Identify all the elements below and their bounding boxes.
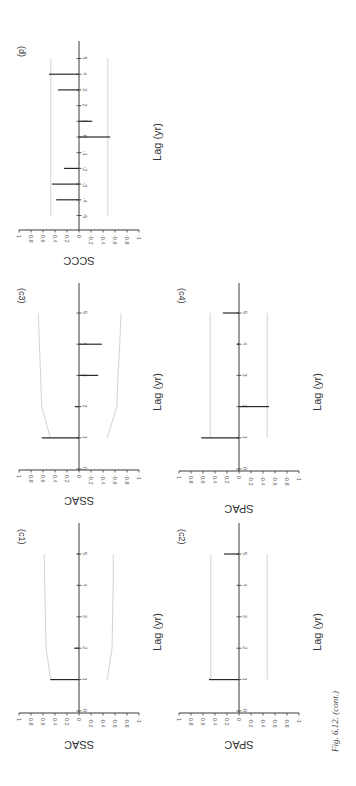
correlation-tick-label: 1 [176,718,182,721]
correlation-tick-label: 0 [236,476,242,479]
lag-tick-label: 4 [242,342,248,345]
correlation-tick-label: -0.2 [88,235,94,244]
lag-tick-label: 5 [82,311,88,314]
correlation-tick-label: -0.6 [112,718,118,727]
correlation-tick-label: 0.2 [64,718,70,726]
correlation-tick-label: 1 [176,476,182,479]
correlation-tick-label: -0.8 [284,718,290,727]
panel-c3: 10.80.60.40.20-0.2-0.4-0.6-0.8-1012345(c… [16,283,163,507]
confidence-lower-line [107,313,121,438]
correlation-tick-label: 0.6 [40,235,46,243]
correlation-axis-label: SPAC [224,503,253,515]
correlation-tick-label: 0.6 [200,476,206,484]
correlation-tick-label: -0.4 [100,235,106,244]
panel-c4: 10.80.60.40.20-0.2-0.4-0.6-0.8-1012345(c… [176,283,323,515]
correlation-tick-label: -0.4 [260,476,266,485]
confidence-lower-line [107,554,113,680]
correlation-tick-label: 0.2 [224,718,230,726]
correlation-tick-label: 0 [76,718,82,721]
correlation-tick-label: 0.4 [212,718,218,726]
lag-tick-label: 1 [242,678,248,681]
correlation-tick-label: -0.8 [284,476,290,485]
correlation-tick-label: -0.2 [88,718,94,727]
correlation-tick-label: 0.8 [28,235,34,243]
lag-axis-label: Lag (yr) [151,613,163,651]
figure-caption: Fig. 6.12. (cont.) [330,691,340,753]
lag-tick-label: 2 [82,104,88,107]
correlation-tick-label: 0.4 [52,718,58,726]
correlation-tick-label: 0 [76,235,82,238]
lag-tick-label: 1 [242,436,248,439]
correlation-tick-label: 0.6 [200,718,206,726]
correlation-tick-label: -0.6 [272,718,278,727]
lag-tick-label: 5 [242,552,248,555]
correlation-tick-label: -0.6 [112,235,118,244]
correlation-tick-label: 0.8 [28,718,34,726]
lag-tick-label: 3 [242,615,248,618]
correlation-tick-label: -1 [136,718,142,723]
correlation-tick-label: -1 [296,718,302,723]
correlation-tick-label: 0.4 [52,235,58,243]
correlation-tick-label: 0.8 [188,718,194,726]
correlation-tick-label: -0.4 [260,718,266,727]
correlation-tick-label: 0.4 [212,476,218,484]
lag-axis-label: Lag (yr) [151,373,163,411]
correlation-tick-label: -0.2 [248,476,254,485]
correlation-tick-label: -0.8 [124,475,130,484]
correlation-axis-label: SPAC [224,739,253,751]
correlation-tick-label: -1 [136,475,142,480]
lag-tick-label: -4 [82,198,88,203]
correlation-tick-label: -0.8 [124,235,130,244]
correlation-axis-label: SSAC [64,739,94,751]
panel-c1: 10.80.60.40.20-0.2-0.4-0.6-0.8-1012345(c… [16,523,163,751]
correlation-axis-label: SSAC [64,495,94,507]
correlation-tick-label: 0.8 [188,476,194,484]
correlation-tick-label: 0.2 [64,475,70,483]
correlation-tick-label: -0.2 [88,475,94,484]
lag-tick-label: 5 [242,311,248,314]
lag-tick-label: 0 [242,709,248,712]
lag-tick-label: 5 [82,552,88,555]
correlation-tick-label: 0.4 [52,475,58,483]
lag-tick-label: 4 [242,583,248,586]
correlation-tick-label: 1 [16,235,22,238]
lag-tick-label: 4 [82,583,88,586]
lag-tick-label: 2 [242,646,248,649]
correlation-tick-label: 0.2 [64,235,70,243]
correlation-tick-label: -0.6 [272,476,278,485]
lag-tick-label: 3 [242,373,248,376]
confidence-upper-line [44,554,51,680]
lag-axis-label: Lag (yr) [311,613,323,651]
lag-tick-label: 3 [82,88,88,91]
lag-tick-label: 1 [82,436,88,439]
correlation-tick-label: -1 [136,235,142,240]
correlation-tick-label: 0.6 [40,475,46,483]
confidence-upper-line [38,313,50,438]
lag-axis-label: Lag (yr) [311,373,323,411]
figure-canvas: 10.80.60.40.20-0.2-0.4-0.6-0.8-1-5-4-3-2… [0,0,356,786]
lag-tick-label: 2 [82,405,88,408]
correlation-tick-label: -0.8 [124,718,130,727]
correlation-tick-label: -0.4 [100,475,106,484]
lag-tick-label: -3 [82,182,88,187]
correlation-axis-label: SCCC [63,255,94,267]
lag-tick-label: 0 [82,467,88,470]
lag-tick-label: 0 [82,709,88,712]
correlation-tick-label: 0.2 [224,476,230,484]
correlation-tick-label: 0 [236,718,242,721]
panel-label: (c4) [177,288,187,304]
lag-tick-label: 5 [82,57,88,60]
lag-tick-label: 0 [242,467,248,470]
panel-label: (c1) [17,529,27,545]
lag-tick-label: -5 [82,214,88,219]
lag-tick-label: 1 [82,678,88,681]
lag-tick-label: 3 [82,615,88,618]
correlation-tick-label: 0 [76,475,82,478]
lag-tick-label: 4 [82,72,88,75]
correlation-tick-label: -1 [296,476,302,481]
panel-label: (d) [17,46,27,57]
panel-d: 10.80.60.40.20-0.2-0.4-0.6-0.8-1-5-4-3-2… [16,41,163,267]
correlation-tick-label: 1 [16,718,22,721]
correlation-tick-label: 0.6 [40,718,46,726]
correlation-tick-label: 0.8 [28,475,34,483]
